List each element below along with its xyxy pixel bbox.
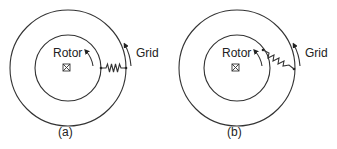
crossed-square-icon: [63, 64, 70, 71]
grid-label: Grid: [305, 46, 328, 60]
rotor-inner-circle: [35, 35, 101, 101]
spring-icon: [100, 64, 128, 72]
diagram-b: Rotor Grid (b): [179, 10, 328, 139]
grid-label: Grid: [136, 46, 159, 60]
diagram-a: Rotor Grid (a): [10, 10, 159, 139]
crossed-square-icon: [232, 64, 239, 71]
rotor-rotation-arrow-icon: [255, 51, 262, 66]
rotor-label: Rotor: [53, 46, 82, 60]
caption-a: (a): [58, 125, 73, 139]
spring-icon: [262, 49, 296, 71]
rotor-rotation-arrow-icon: [86, 51, 93, 66]
rotor-inner-circle: [204, 35, 270, 101]
rotor-label: Rotor: [222, 46, 251, 60]
grid-outer-circle: [179, 10, 295, 126]
caption-b: (b): [227, 125, 242, 139]
